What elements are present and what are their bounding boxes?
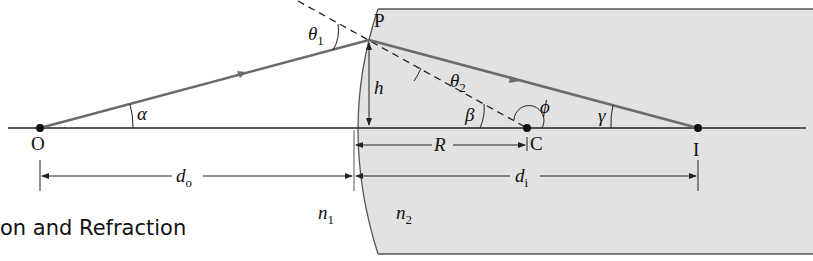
label-gamma: γ: [598, 105, 606, 126]
caption-fragment: on and Refraction: [0, 216, 186, 240]
label-I: I: [693, 139, 699, 160]
label-h: h: [374, 77, 384, 98]
label-C: C: [530, 133, 543, 154]
label-d-o: do: [176, 165, 192, 190]
theta1-arc: [333, 24, 339, 50]
label-beta: β: [464, 104, 475, 125]
label-P: P: [374, 10, 385, 31]
label-phi: ϕ: [540, 96, 550, 117]
image-point-I: [694, 124, 702, 132]
center-point-C: [523, 124, 531, 132]
medium-n2-region: [358, 9, 813, 254]
label-n1: n1: [318, 202, 334, 227]
label-R: R: [433, 134, 446, 155]
object-point-O: [36, 124, 44, 132]
incident-ray: [40, 40, 369, 128]
label-O: O: [31, 133, 45, 154]
alpha-arc: [130, 104, 133, 128]
label-theta1: θ1: [308, 23, 324, 48]
label-alpha: α: [137, 103, 148, 124]
